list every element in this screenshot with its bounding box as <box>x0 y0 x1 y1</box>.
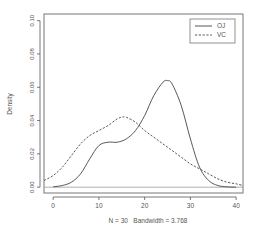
legend-label-vc: VC <box>217 31 226 38</box>
curves <box>44 80 243 187</box>
y-tick-label: 0.10 <box>29 14 35 26</box>
x-tick-label: 0 <box>51 202 55 209</box>
y-tick-label: 0.06 <box>29 81 35 93</box>
y-tick-label: 0.08 <box>29 47 35 59</box>
x-axis-label: N = 30 Bandwidth = 3.768 <box>109 217 188 224</box>
y-tick-label: 0.04 <box>29 114 35 126</box>
y-axis-label: Density <box>6 92 14 114</box>
x-tick-label: 40 <box>233 202 241 209</box>
density-chart: 0102030400.000.020.040.060.080.10 OJVC D… <box>0 0 256 234</box>
y-tick-label: 0.00 <box>29 181 35 193</box>
x-tick-label: 20 <box>141 202 149 209</box>
legend-label-oj: OJ <box>217 22 225 29</box>
x-tick-label: 10 <box>95 202 103 209</box>
curve-oj <box>53 80 236 187</box>
y-tick-label: 0.02 <box>29 147 35 159</box>
x-tick-label: 30 <box>187 202 195 209</box>
curve-vc <box>44 117 243 186</box>
legend: OJVC <box>190 19 235 43</box>
legend-box <box>190 19 235 43</box>
